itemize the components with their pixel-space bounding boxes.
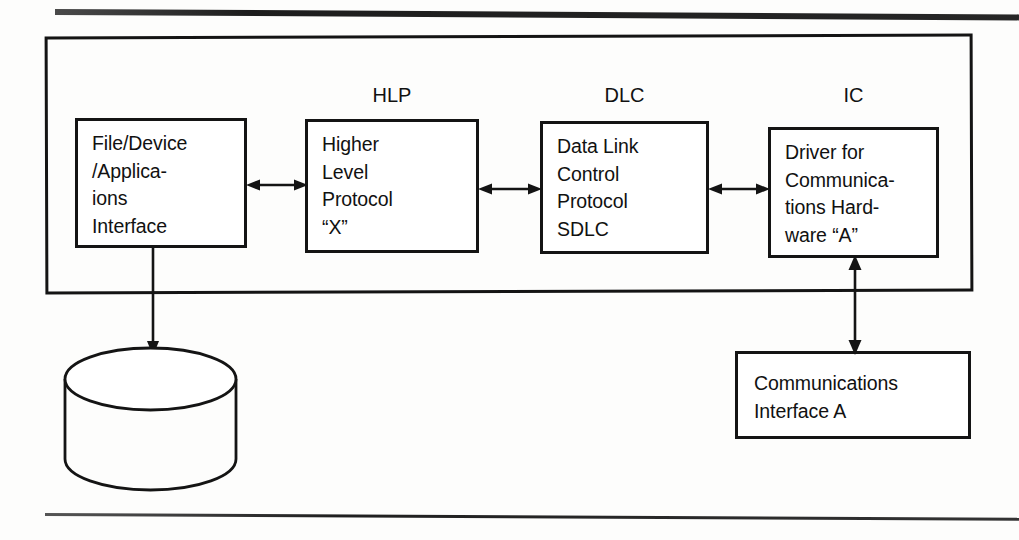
box-line: Interface bbox=[92, 213, 244, 241]
connector-file-to-hlp bbox=[246, 172, 308, 198]
connector-ic-to-comm-interface bbox=[842, 255, 868, 355]
disk-storage-cylinder bbox=[62, 345, 239, 493]
box-higher-level-protocol: Higher Level Protocol “X” bbox=[305, 119, 479, 253]
box-file-device-applications-interface: File/Device /Applica- ions Interface bbox=[75, 118, 247, 248]
connector-hlp-to-dlc bbox=[478, 176, 542, 202]
box-communications-interface-a: Communications Interface A bbox=[735, 351, 971, 439]
page-rule-bottom bbox=[45, 513, 1019, 520]
box-line: ions bbox=[92, 185, 244, 213]
group-label-ic: IC bbox=[768, 84, 939, 107]
box-line: ware “A” bbox=[785, 222, 936, 250]
box-line: Communications bbox=[754, 370, 968, 398]
box-line: Communica- bbox=[785, 167, 936, 195]
box-line: /Applica- bbox=[92, 158, 244, 186]
connector-file-to-storage bbox=[140, 246, 166, 356]
figure-canvas: HLP DLC IC File/Device /Applica- ions In… bbox=[0, 0, 1019, 540]
box-driver-communications-hardware: Driver for Communica- tions Hard- ware “… bbox=[768, 127, 939, 258]
box-line: Higher bbox=[322, 131, 476, 159]
box-line: SDLC bbox=[557, 216, 706, 244]
box-line: Interface A bbox=[754, 398, 968, 426]
box-line: Level bbox=[322, 159, 476, 187]
box-line: Protocol bbox=[557, 188, 706, 216]
box-line: File/Device bbox=[92, 130, 244, 158]
box-data-link-control-protocol: Data Link Control Protocol SDLC bbox=[540, 121, 709, 254]
connector-dlc-to-ic bbox=[708, 176, 770, 202]
group-label-dlc: DLC bbox=[540, 84, 709, 107]
page-rule-top bbox=[55, 9, 1019, 20]
group-label-hlp: HLP bbox=[305, 84, 479, 107]
box-line: Control bbox=[557, 161, 706, 189]
box-line: Driver for bbox=[785, 139, 936, 167]
box-line: “X” bbox=[322, 214, 476, 242]
box-line: Protocol bbox=[322, 186, 476, 214]
box-line: Data Link bbox=[557, 133, 706, 161]
box-line: tions Hard- bbox=[785, 194, 936, 222]
